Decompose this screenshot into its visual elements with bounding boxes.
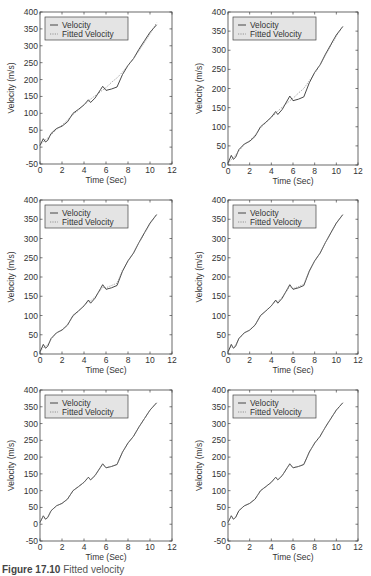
x-tick-label: 10 [332,542,342,552]
x-tick-label: 2 [247,166,252,176]
x-tick-label: 6 [104,165,109,175]
y-tick-label: 350 [212,214,226,224]
x-tick-label: 12 [167,165,177,175]
y-tick-label: 150 [212,469,226,479]
x-tick-label: 2 [60,165,65,175]
x-tick-label: 10 [145,542,155,552]
y-tick-label: 200 [24,452,38,462]
legend-entry: Fitted Velocity [62,407,115,417]
chart-panel-6: 024681012-50050100150200250300350400Time… [194,385,363,562]
y-tick-label: 150 [212,291,226,301]
y-tick-label: 200 [212,84,226,94]
y-tick-label: 100 [24,108,38,118]
chart-panel-4: 024681012050100150200250300350400Time (S… [194,195,363,375]
y-tick-label: 50 [217,502,227,512]
chart-panel-5: 024681012-50050100150200250300350400Time… [6,385,177,562]
y-tick-label: 150 [24,469,38,479]
x-tick-label: 2 [247,542,252,552]
y-tick-label: 400 [24,385,38,395]
legend: VelocityFitted Velocity [45,17,128,40]
y-tick-label: 200 [212,452,226,462]
x-tick-label: 0 [38,165,43,175]
x-tick-label: 0 [226,355,231,365]
legend: VelocityFitted Velocity [233,395,316,418]
y-tick-label: 300 [24,419,38,429]
figure-grid: 024681012-50050100150200250300350400Time… [0,0,371,576]
legend-entry: Fitted Velocity [250,29,303,39]
y-tick-label: 100 [24,311,38,321]
y-tick-label: 350 [24,24,38,34]
x-tick-label: 0 [226,542,231,552]
legend-entry: Fitted Velocity [250,407,303,417]
x-tick-label: 10 [145,355,155,365]
x-tick-label: 8 [312,355,317,365]
legend-entry: Fitted Velocity [62,29,115,39]
x-tick-label: 4 [82,542,87,552]
y-tick-label: 400 [212,7,226,17]
x-tick-label: 8 [126,542,131,552]
chart-panel-1: 024681012-50050100150200250300350400Time… [6,7,177,185]
x-tick-label: 8 [126,165,131,175]
x-tick-label: 8 [312,542,317,552]
y-tick-label: 50 [29,330,39,340]
y-tick-label: 250 [24,435,38,445]
y-tick-label: 200 [212,272,226,282]
legend: VelocityFitted Velocity [45,395,128,418]
y-axis-label: Velocity (m/s) [194,440,204,491]
y-tick-label: 400 [24,7,38,17]
x-tick-label: 0 [38,355,43,365]
y-tick-label: 300 [212,45,226,55]
y-tick-label: 250 [24,58,38,68]
x-tick-label: 2 [247,355,252,365]
x-tick-label: 12 [353,166,363,176]
y-tick-label: 250 [212,64,226,74]
legend: VelocityFitted Velocity [45,205,128,228]
y-tick-label: -50 [26,536,39,546]
chart-panel-2: 024681012050100150200250300350400Time (S… [194,7,363,186]
y-tick-label: 0 [33,349,38,359]
caption-label: Figure 17.10 [2,564,60,575]
legend: VelocityFitted Velocity [233,205,316,228]
y-tick-label: 0 [221,519,226,529]
y-tick-label: 300 [24,41,38,51]
y-tick-label: -50 [214,536,227,546]
y-tick-label: 300 [24,234,38,244]
x-tick-label: 10 [332,355,342,365]
y-tick-label: 250 [212,253,226,263]
x-tick-label: 12 [353,355,363,365]
y-axis-label: Velocity (m/s) [194,63,204,114]
chart-panel-3: 024681012050100150200250300350400Time (S… [6,195,177,375]
figure-caption: Figure 17.10 Fitted velocity [2,564,124,575]
y-tick-label: 50 [217,330,227,340]
x-tick-label: 6 [104,355,109,365]
legend-entry: Fitted Velocity [62,217,115,227]
y-axis-label: Velocity (m/s) [6,251,16,302]
y-tick-label: 100 [212,486,226,496]
x-axis-label: Time (Sec) [85,552,126,562]
x-tick-label: 10 [332,166,342,176]
x-tick-label: 2 [60,355,65,365]
x-tick-label: 12 [167,542,177,552]
y-tick-label: 100 [212,311,226,321]
y-tick-label: 300 [212,419,226,429]
x-axis-label: Time (Sec) [272,176,313,186]
x-tick-label: 6 [291,542,296,552]
x-tick-label: 12 [353,542,363,552]
y-tick-label: 0 [33,519,38,529]
y-axis-label: Velocity (m/s) [194,251,204,302]
y-tick-label: 100 [212,122,226,132]
x-axis-label: Time (Sec) [85,175,126,185]
y-tick-label: 350 [24,402,38,412]
y-tick-label: 300 [212,234,226,244]
x-axis-label: Time (Sec) [272,365,313,375]
y-tick-label: 250 [212,435,226,445]
y-tick-label: 150 [212,103,226,113]
x-tick-label: 6 [104,542,109,552]
y-tick-label: 150 [24,91,38,101]
y-tick-label: 150 [24,291,38,301]
x-tick-label: 0 [38,542,43,552]
x-axis-label: Time (Sec) [85,365,126,375]
x-tick-label: 4 [82,355,87,365]
y-tick-label: -50 [26,159,39,169]
y-tick-label: 200 [24,272,38,282]
